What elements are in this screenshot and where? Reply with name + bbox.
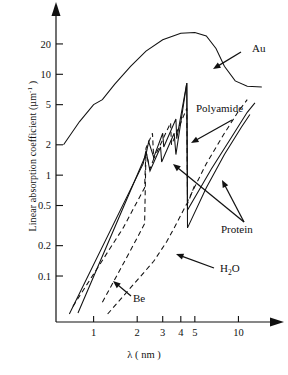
label-be: Be [133,292,145,304]
series-protein [78,83,255,313]
series-h2o [108,185,195,314]
absorption-chart: 123451020105210.50.20.1AuPolyamideProtei… [0,0,288,375]
y-axis-arrowhead [52,2,61,16]
y-tick-label: 0.2 [38,240,51,251]
x-tick-label: 5 [192,327,197,338]
y-tick-label: 5 [46,99,51,110]
x-axis-title: λ ( nm ) [0,349,288,360]
y-tick-label: 0.5 [38,200,51,211]
label-polyamide: Polyamide [196,102,243,114]
series-protein [69,83,250,314]
au-arrow-head [213,62,221,69]
label-protein: Protein [221,223,253,235]
y-axis-title: Linear absorption coefficient (µm-1 ) [26,56,38,256]
y-tick-label: 10 [41,69,52,80]
x-tick-label: 2 [135,327,140,338]
h2o-arrow [182,256,214,268]
label-au: Au [252,42,266,54]
x-tick-label: 1 [91,327,96,338]
series-be [102,152,153,302]
x-axis-arrowhead [270,318,284,327]
x-tick-label: 3 [160,327,165,338]
y-tick-label: 2 [46,139,51,150]
y-tick-label: 1 [46,170,51,181]
y-tick-label: 0.1 [38,271,51,282]
x-tick-label: 10 [233,327,244,338]
chart-plot-area: 123451020105210.50.20.1AuPolyamideProtei… [0,0,288,375]
au-arrow [218,52,241,66]
x-tick-label: 4 [178,327,184,338]
protein-arrow-2 [225,185,244,222]
label-h2o: H2O [220,262,240,277]
series-au [64,32,262,144]
h2o-arrow-head [176,254,184,260]
y-tick-label: 20 [41,39,52,50]
